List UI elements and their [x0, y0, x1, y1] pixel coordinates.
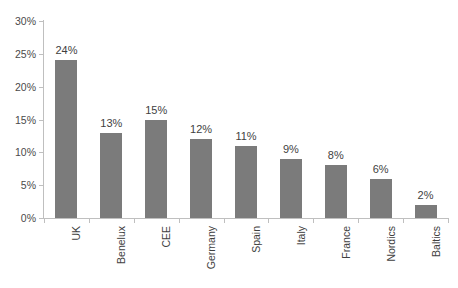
- x-category-label: Germany: [205, 226, 217, 269]
- x-tick-mark: [89, 218, 90, 223]
- x-category-label: Baltics: [430, 226, 442, 257]
- y-tick-mark: [39, 120, 44, 121]
- plot-area: 0%5%10%15%20%25%30% 24%13%15%12%11%9%8%6…: [44, 21, 448, 218]
- x-category-label: CEE: [160, 226, 172, 248]
- x-category-label: UK: [70, 226, 82, 241]
- bar-value-label: 15%: [145, 104, 167, 116]
- x-tick-mark: [313, 218, 314, 223]
- x-tick-mark: [224, 218, 225, 223]
- y-tick-mark: [39, 21, 44, 22]
- x-category-label: Benelux: [115, 226, 127, 264]
- x-category-label: France: [340, 226, 352, 259]
- x-tick-mark: [358, 218, 359, 223]
- bar-value-label: 11%: [235, 130, 256, 142]
- bar[interactable]: [325, 165, 347, 218]
- y-tick-label: 20%: [15, 81, 36, 93]
- x-tick-mark: [268, 218, 269, 223]
- y-tick-label: 30%: [15, 15, 36, 27]
- bar[interactable]: [370, 179, 392, 218]
- y-tick-mark: [39, 152, 44, 153]
- bar[interactable]: [280, 159, 302, 218]
- x-tick-mark: [403, 218, 404, 223]
- bar-value-label: 9%: [283, 143, 299, 155]
- x-tick-mark: [44, 218, 45, 223]
- x-category-label: Nordics: [385, 226, 397, 262]
- y-tick-label: 15%: [15, 114, 36, 126]
- bar-value-label: 8%: [328, 149, 344, 161]
- bar-value-label: 2%: [418, 189, 434, 201]
- bar[interactable]: [145, 120, 167, 219]
- x-tick-mark: [179, 218, 180, 223]
- y-tick-mark: [39, 185, 44, 186]
- bar[interactable]: [100, 133, 122, 218]
- bar[interactable]: [55, 60, 77, 218]
- bar-chart-figure: 0%5%10%15%20%25%30% 24%13%15%12%11%9%8%6…: [0, 0, 458, 288]
- bar[interactable]: [235, 146, 257, 218]
- y-tick-label: 5%: [21, 179, 36, 191]
- y-tick-label: 10%: [15, 146, 36, 158]
- bar-value-label: 13%: [100, 117, 122, 129]
- y-tick-label: 0%: [21, 212, 36, 224]
- y-tick-label: 25%: [15, 48, 36, 60]
- x-tick-mark: [448, 218, 449, 223]
- y-tick-mark: [39, 87, 44, 88]
- bar[interactable]: [415, 205, 437, 218]
- y-tick-mark: [39, 54, 44, 55]
- x-category-label: Italy: [295, 226, 307, 245]
- bar-value-label: 24%: [55, 44, 77, 56]
- x-category-label: Spain: [250, 226, 262, 253]
- bar-value-label: 6%: [373, 163, 389, 175]
- x-tick-mark: [134, 218, 135, 223]
- bar[interactable]: [190, 139, 212, 218]
- bar-value-label: 12%: [190, 123, 212, 135]
- x-axis-line: [43, 218, 448, 219]
- chart-title: [0, 0, 458, 3]
